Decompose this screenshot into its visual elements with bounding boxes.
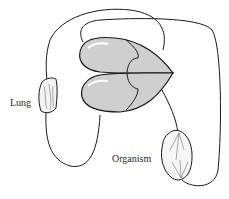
heart-upper-chamber <box>80 38 173 74</box>
systemic-artery-vessel <box>162 90 178 133</box>
organism-label: Organism <box>112 153 151 164</box>
circulation-diagram <box>0 0 229 199</box>
heart <box>80 38 173 112</box>
pulmonary-vein-vessel <box>46 113 100 167</box>
heart-lower-chamber <box>82 73 173 112</box>
lung-shape <box>39 78 57 113</box>
lung-label: Lung <box>10 97 31 108</box>
